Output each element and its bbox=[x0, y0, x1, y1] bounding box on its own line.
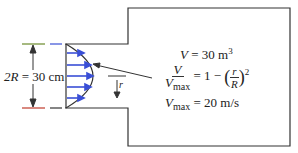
radius-marker bbox=[108, 76, 126, 98]
radius-ratio-numerator: r bbox=[230, 65, 238, 78]
radius-label: r bbox=[119, 79, 123, 90]
equation-rhs-prefix: = 1 − bbox=[193, 68, 221, 83]
equals-sign: = bbox=[193, 95, 200, 110]
volume-exponent: 3 bbox=[228, 46, 233, 56]
diameter-symbol: 2R bbox=[4, 69, 18, 84]
vmax-label: Vmax = 20 m/s bbox=[165, 95, 239, 111]
ratio-denominator: Vmax bbox=[165, 77, 190, 90]
diameter-value: 30 cm bbox=[32, 69, 64, 84]
vmax-symbol: V bbox=[165, 95, 173, 110]
diameter-label: 2R = 30 cm bbox=[4, 69, 64, 85]
velocity-ratio: V Vmax bbox=[165, 64, 190, 90]
ratio-numerator: V bbox=[172, 64, 184, 77]
denominator-subscript: max bbox=[173, 81, 190, 92]
volume-value: 30 m bbox=[202, 47, 228, 62]
denominator-symbol: V bbox=[165, 75, 173, 90]
vmax-value: 20 m/s bbox=[204, 95, 239, 110]
equation-exponent: 2 bbox=[245, 67, 250, 77]
equals-sign: = bbox=[22, 69, 29, 84]
velocity-arrows bbox=[67, 50, 93, 101]
volume-symbol: V bbox=[180, 47, 188, 62]
velocity-profile-equation: V Vmax = 1 − (rR)2 bbox=[165, 64, 249, 90]
equals-sign: = bbox=[191, 47, 198, 62]
radius-ratio-denominator: R bbox=[231, 78, 238, 90]
vmax-subscript: max bbox=[173, 101, 190, 112]
volume-label: V = 30 m3 bbox=[180, 46, 233, 63]
radius-ratio: rR bbox=[230, 65, 238, 90]
